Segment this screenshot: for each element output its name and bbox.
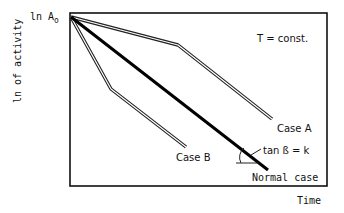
origin-label: ln Ao xyxy=(30,11,59,25)
normal-case-label: Normal case xyxy=(252,172,318,183)
condition-label: T = const. xyxy=(256,33,308,44)
activity-diagram: ln Ao ln of activity T = const. Case A C… xyxy=(0,0,344,213)
case-a-label: Case A xyxy=(277,123,312,134)
y-axis-label: ln of activity xyxy=(12,19,23,103)
case-b-label: Case B xyxy=(176,152,211,163)
case-b-curve xyxy=(71,17,186,147)
slope-label: tan ß = k xyxy=(263,145,310,156)
x-axis-label: Time xyxy=(297,195,321,206)
